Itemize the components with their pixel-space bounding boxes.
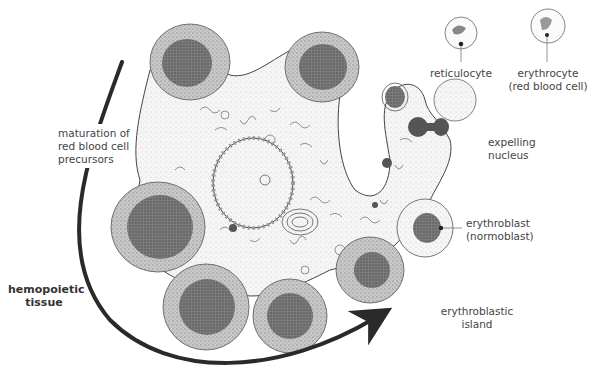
erythroblast-left [111,182,205,272]
late-erythroblast [382,83,408,111]
erythrocyte-cell [531,9,565,62]
hemopoietic-line1: hemopoietic [8,283,80,296]
maturation-label: maturation of red blood cell precursors [58,127,130,166]
erythroblast-top-left [150,24,230,100]
expelling-nucleus-label: expelling nucleus [488,136,536,162]
erythrocyte-line1: erythrocyte [505,67,591,80]
erythrocyte-label: erythrocyte (red blood cell) [505,67,591,93]
expelling-line1: expelling [488,136,536,149]
erythroblast-bottom-middle [253,279,327,353]
maturation-line3: precursors [58,153,130,166]
maturation-line1: maturation of [58,127,130,140]
erythroblast-bottom-left [163,264,249,350]
macrophage-nucleus [213,138,293,228]
reticulocyte-text: reticulocyte [430,67,492,80]
erythroblast-normoblast [397,199,462,257]
erythroblastic-island-label: erythroblastic island [434,305,520,331]
erythroblast-top-right [285,32,359,102]
reticulocyte-cell [445,17,477,62]
maturation-line2: red blood cell [58,140,130,153]
hemopoietic-line2: tissue [8,296,80,309]
reticulocyte-label: reticulocyte [430,67,492,80]
erythroblast-line1: erythroblast [466,217,534,230]
island-line1: erythroblastic [434,305,520,318]
erythroblast-bottom-right [336,237,404,303]
erythroblast-line2: (normoblast) [466,230,534,243]
island-line2: island [434,318,520,331]
hemopoietic-tissue-label: hemopoietic tissue [8,283,80,309]
expelling-line2: nucleus [488,149,536,162]
erythroblast-label: erythroblast (normoblast) [466,217,534,243]
erythrocyte-line2: (red blood cell) [505,80,591,93]
